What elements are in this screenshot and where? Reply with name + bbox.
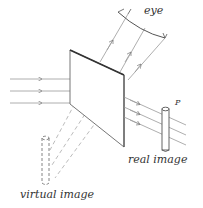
mirror-ray-diagram: eye P real image virtual image [0, 0, 203, 208]
real-image-cylinder [162, 107, 169, 151]
point-label: P [175, 98, 180, 107]
diagram-drawing [0, 0, 203, 208]
real-image-label: real image [128, 153, 187, 166]
virtual-image-cylinder [42, 136, 49, 184]
virtual-image-label: virtual image [20, 188, 94, 201]
mirror [70, 50, 124, 147]
eye-label: eye [144, 4, 163, 17]
